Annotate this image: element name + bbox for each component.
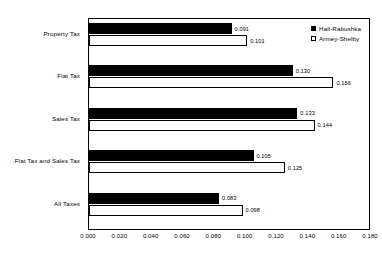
bar-value-label: 0.098 (246, 207, 261, 213)
bar-row: 0.144 (89, 120, 369, 131)
bar[interactable] (89, 162, 285, 173)
x-tick-label: 0.180 (362, 233, 378, 240)
category-label: Flat Tax (0, 72, 80, 79)
bar-row: 0.130 (89, 65, 369, 76)
category-axis-labels: Property TaxFlat TaxSales TaxFlat Tax an… (0, 18, 84, 230)
legend-item[interactable]: Armey-Shelby (311, 34, 361, 43)
bar-value-label: 0.144 (318, 122, 333, 128)
bar-value-label: 0.156 (336, 80, 351, 86)
bar[interactable] (89, 205, 243, 216)
x-tick-label: 0.000 (80, 233, 96, 240)
legend-swatch-icon (311, 26, 316, 31)
x-tick-label: 0.080 (206, 233, 222, 240)
legend-item[interactable]: Hall-Rabushka (311, 24, 361, 33)
bar-value-label: 0.083 (222, 195, 237, 201)
bar[interactable] (89, 108, 297, 119)
x-tick-label: 0.060 (174, 233, 190, 240)
bar[interactable] (89, 150, 254, 161)
category-label: Property Tax (0, 30, 80, 37)
bar-group: 0.1300.156 (89, 65, 369, 88)
chart-legend: Hall-RabushkaArmey-Shelby (309, 23, 363, 45)
plot-inner: 0.0910.1010.1300.1560.1330.1440.1050.125… (89, 19, 369, 229)
bar-value-label: 0.125 (288, 165, 303, 171)
bar-row: 0.083 (89, 193, 369, 204)
x-tick-label: 0.020 (112, 233, 128, 240)
category-label: Flat Tax and Sales Tax (0, 157, 80, 164)
bar-group: 0.0830.098 (89, 193, 369, 216)
x-tick-label: 0.040 (143, 233, 159, 240)
x-tick-label: 0.100 (237, 233, 253, 240)
bar-value-label: 0.130 (296, 68, 311, 74)
bar-row: 0.105 (89, 150, 369, 161)
legend-label: Hall-Rabushka (319, 25, 361, 32)
bar-group: 0.1050.125 (89, 150, 369, 173)
bar-value-label: 0.105 (257, 153, 272, 159)
bar[interactable] (89, 23, 232, 34)
bar-row: 0.133 (89, 108, 369, 119)
x-tick-label: 0.120 (268, 233, 284, 240)
bar-row: 0.156 (89, 77, 369, 88)
bar-group: 0.1330.144 (89, 108, 369, 131)
bar[interactable] (89, 77, 333, 88)
category-label: All Taxes (0, 200, 80, 207)
bar[interactable] (89, 65, 293, 76)
x-axis: 0.0000.0200.0400.0600.0800.1000.1200.140… (88, 230, 370, 246)
category-label: Sales Tax (0, 115, 80, 122)
bar[interactable] (89, 120, 315, 131)
plot-area: 0.0910.1010.1300.1560.1330.1440.1050.125… (88, 18, 370, 230)
legend-swatch-icon (311, 36, 316, 41)
bar[interactable] (89, 35, 247, 46)
bar-chart: Property TaxFlat TaxSales TaxFlat Tax an… (0, 0, 382, 258)
x-tick-label: 0.140 (300, 233, 316, 240)
bar-value-label: 0.091 (235, 26, 250, 32)
bar-row: 0.098 (89, 205, 369, 216)
bar-value-label: 0.101 (250, 38, 265, 44)
legend-label: Armey-Shelby (319, 35, 359, 42)
bar[interactable] (89, 193, 219, 204)
x-tick-label: 0.160 (331, 233, 347, 240)
bar-row: 0.125 (89, 162, 369, 173)
bar-value-label: 0.133 (300, 110, 315, 116)
